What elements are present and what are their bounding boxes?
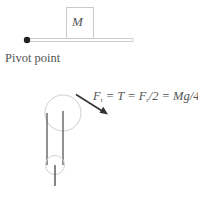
force-equation: Ft = T = Fr/2 = Mg/4 xyxy=(93,89,198,104)
pivot-dot-icon xyxy=(24,37,30,43)
mass-label: M xyxy=(72,14,83,30)
eq-f-t: F xyxy=(93,89,101,103)
eq-middle: = T = xyxy=(103,89,139,103)
pivot-point-label: Pivot point xyxy=(5,51,60,66)
eq-tail: /2 = Mg/4 xyxy=(149,89,198,103)
